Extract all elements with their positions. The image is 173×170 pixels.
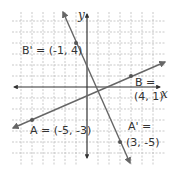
point-b xyxy=(129,74,133,78)
point-a xyxy=(30,118,34,122)
coordinate-plane: x y B' = (-1, 4) B = (4, 1) A = (-5, -3)… xyxy=(0,0,173,170)
label-b-prime: B' = (-1, 4) xyxy=(22,44,82,57)
label-a-prime-line1: A' = xyxy=(128,120,151,133)
y-axis-label: y xyxy=(77,8,85,22)
label-b-line1: B = xyxy=(135,76,155,89)
label-a: A = (-5, -3) xyxy=(30,124,91,137)
label-b-line2: (4, 1) xyxy=(134,90,164,103)
point-a-prime xyxy=(118,140,122,144)
label-a-prime-line2: (3, -5) xyxy=(126,136,160,149)
